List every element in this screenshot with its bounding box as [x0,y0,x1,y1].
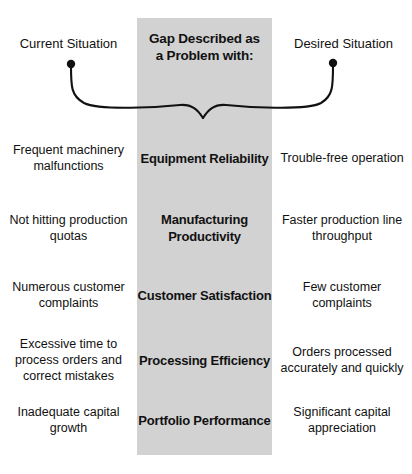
row-current-situation: Frequent machinery malfunctions [0,142,137,174]
column-header-desired-situation: Desired Situation [277,36,410,52]
table-row: Inadequate capital growth Portfolio Perf… [0,402,412,438]
row-gap-topic: Processing Efficiency [137,352,272,369]
row-gap-topic: Portfolio Performance [137,412,272,429]
row-desired-situation: Orders processed accurately and quickly [272,344,412,376]
row-current-situation: Numerous customer complaints [0,279,137,311]
band-title-line-2: a Problem with: [137,47,272,64]
row-desired-situation: Few customer complaints [272,279,412,311]
row-desired-situation: Faster production line throughput [272,212,412,244]
table-row: Frequent machinery malfunctions Equipmen… [0,140,412,176]
row-current-situation: Not hitting production quotas [0,212,137,244]
table-row: Not hitting production quotas Manufactur… [0,210,412,246]
row-gap-topic: Manufacturing Productivity [137,211,272,245]
band-title: Gap Described as a Problem with: [137,30,272,64]
brace-endpoint-dot-left [67,60,75,68]
band-title-line-1: Gap Described as [137,30,272,47]
table-row: Excessive time to process orders and cor… [0,334,412,386]
row-current-situation: Inadequate capital growth [0,404,137,436]
row-desired-situation: Trouble-free operation [272,150,412,166]
row-current-situation: Excessive time to process orders and cor… [0,336,137,384]
row-gap-topic: Equipment Reliability [137,150,272,167]
brace-endpoint-dot-right [329,59,337,67]
table-row: Numerous customer complaints Customer Sa… [0,277,412,313]
row-desired-situation: Significant capital appreciation [272,404,412,436]
row-gap-topic: Customer Satisfaction [137,287,272,304]
gap-analysis-diagram: Gap Described as a Problem with: Current… [0,0,412,474]
column-header-current-situation: Current Situation [2,36,135,52]
